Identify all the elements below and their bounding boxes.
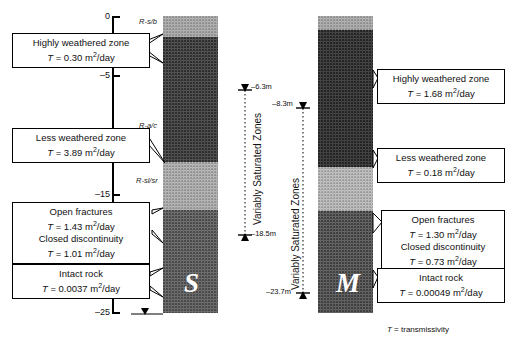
band-s-top — [163, 16, 218, 37]
callout-line: Highly weathered zone — [17, 37, 145, 49]
callout-line: T = 0.0037 m2/day — [17, 280, 145, 295]
callout-right-fractures-zone[interactable]: Open fractures T = 1.30 m2/day Closed di… — [381, 210, 505, 272]
axis-label-0: 0 — [84, 12, 110, 21]
callout-line: Less weathered zone — [382, 152, 500, 164]
pointer-left-1 — [148, 34, 163, 44]
axis-tick-5 — [112, 75, 120, 77]
strat-tag-r-s-b: R-s/b — [139, 18, 157, 26]
band-s-less-weathered — [163, 162, 218, 210]
callout-line: Intact rock — [17, 268, 145, 280]
pointer-left-3b — [152, 230, 163, 243]
sat-zone-label-m: Variably Saturated Zones — [290, 178, 301, 290]
pointer-left-4b — [150, 286, 163, 297]
callout-left-fractures-zone[interactable]: Open fractures T = 1.43 m2/day Closed di… — [12, 202, 150, 264]
footnote-transmissivity: T = transmissivity — [387, 325, 449, 334]
callout-line: T = 0.00049 m2/day — [382, 284, 500, 299]
band-m-highly-weathered — [318, 30, 373, 167]
callout-line: Open fractures — [386, 214, 500, 226]
axis-bottom-marker — [131, 308, 163, 315]
callout-left-highly-weathered-zone[interactable]: Highly weathered zone T = 0.30 m2/day — [12, 33, 150, 68]
sat-top-depth-m: –8.3m — [272, 100, 293, 108]
callout-line: Less weathered zone — [17, 132, 145, 144]
callout-right-intact-rock[interactable]: Intact rock T = 0.00049 m2/day — [377, 268, 505, 303]
callout-line: Closed discontinuity — [17, 233, 145, 245]
axis-label-5: –5 — [84, 71, 110, 80]
callout-line: T = 1.43 m2/day — [17, 218, 145, 233]
callout-right-less-weathered-zone[interactable]: Less weathered zone T = 0.18 m2/day — [377, 148, 505, 183]
column-label-m: M — [336, 270, 360, 297]
callout-right-highly-weathered-zone[interactable]: Highly weathered zone T = 1.68 m2/day — [377, 69, 505, 104]
callout-left-less-weathered-zone[interactable]: Less weathered zone T = 3.89 m2/day — [12, 128, 150, 163]
callout-line: T = 1.68 m2/day — [382, 85, 500, 100]
callout-line: Highly weathered zone — [382, 73, 500, 85]
callout-line: Closed discontinuity — [386, 241, 500, 253]
sat-arrow-s — [238, 84, 252, 241]
callout-left-intact-rock[interactable]: Intact rock T = 0.0037 m2/day — [12, 264, 150, 299]
callout-line: T = 1.01 m2/day — [17, 245, 145, 260]
callout-line: T = 0.73 m2/day — [386, 253, 500, 268]
sat-top-depth-s: –6.3m — [251, 83, 272, 91]
axis-tick-25 — [112, 312, 120, 314]
pointer-left-4 — [150, 268, 163, 276]
strat-tag-r-sl-sr: R-sl/sr — [136, 177, 158, 185]
sat-bottom-depth-m: –23.7m — [266, 288, 291, 296]
callout-line: T = 0.18 m2/day — [382, 164, 500, 179]
callout-line: T = 1.30 m2/day — [386, 226, 500, 241]
callout-line: T = 3.89 m2/day — [17, 144, 145, 159]
callout-line: T = 0.30 m2/day — [17, 49, 145, 64]
callout-line: Open fractures — [17, 206, 145, 218]
band-m-less-weathered — [318, 167, 373, 211]
band-m-top — [318, 16, 373, 30]
callout-line: Intact rock — [382, 272, 500, 284]
footnote-text: = transmissivity — [392, 325, 449, 334]
pointer-left-3 — [152, 208, 163, 214]
sat-zone-label-s: Variably Saturated Zones — [252, 113, 263, 225]
figure-canvas: 0 –5 –15 –20 –25 Depth (m) S M R-s/b R-a… — [0, 0, 512, 349]
column-label-s: S — [184, 270, 199, 297]
axis-tick-0 — [112, 16, 120, 18]
band-s-highly-weathered — [163, 37, 218, 162]
axis-label-25: –25 — [84, 308, 110, 317]
pointer-left-1b — [148, 51, 163, 63]
sat-bottom-depth-s: –18.5m — [251, 230, 276, 238]
